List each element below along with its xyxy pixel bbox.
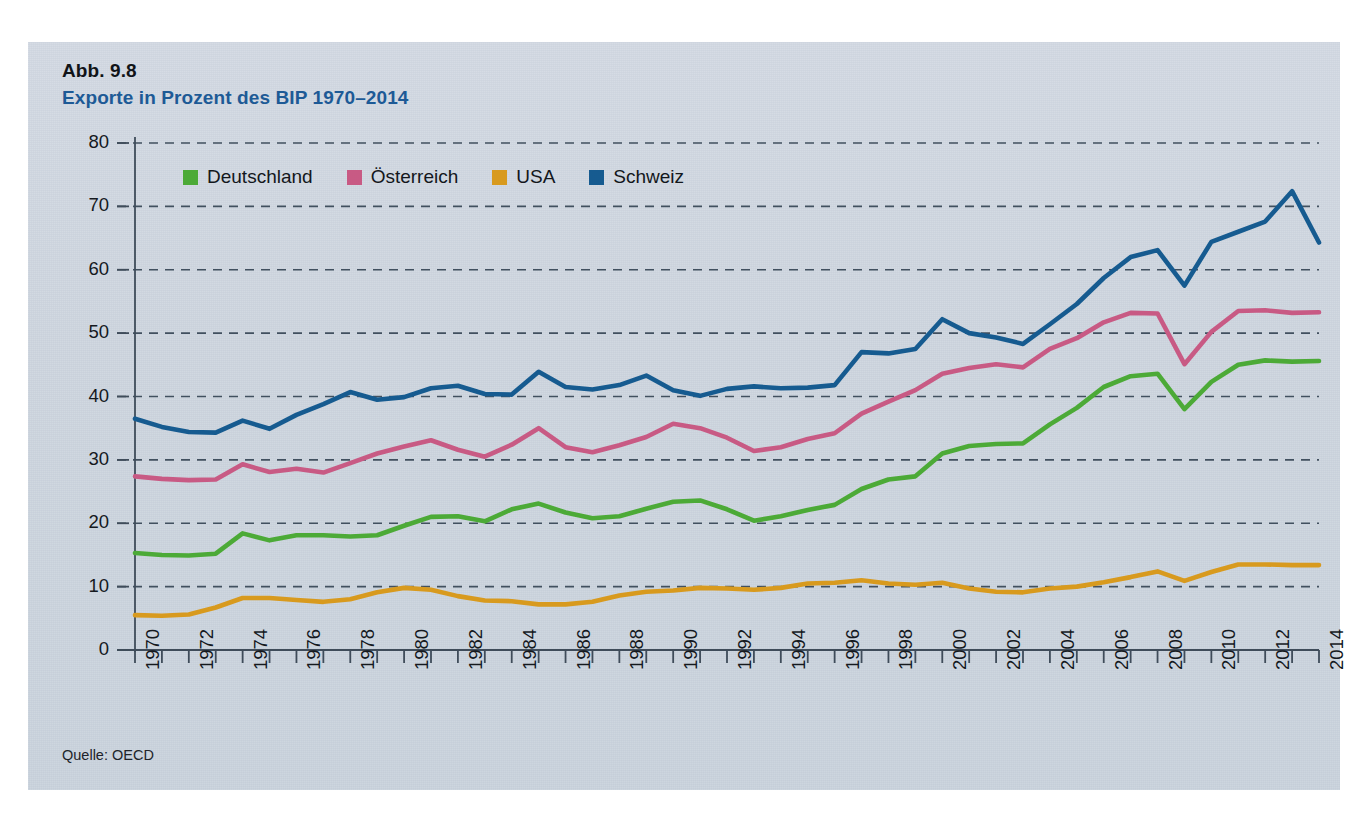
- y-axis-label-20: 20: [65, 511, 109, 533]
- x-axis-label-1972: 1972: [196, 629, 218, 670]
- series-line-sterreich[interactable]: [135, 310, 1319, 480]
- legend-item-schweiz[interactable]: Schweiz: [589, 166, 684, 188]
- legend-swatch-icon: [492, 170, 507, 185]
- y-axis-label-0: 0: [65, 638, 109, 660]
- y-axis-label-40: 40: [65, 385, 109, 407]
- legend-label: Schweiz: [613, 166, 684, 188]
- y-axis-label-70: 70: [65, 194, 109, 216]
- x-axis-label-2000: 2000: [949, 629, 971, 670]
- x-axis-label-2008: 2008: [1165, 629, 1187, 670]
- legend-label: USA: [516, 166, 555, 188]
- x-axis-label-1986: 1986: [573, 629, 595, 670]
- x-axis-label-2012: 2012: [1272, 629, 1294, 670]
- y-axis-label-10: 10: [65, 575, 109, 597]
- legend-swatch-icon: [589, 170, 604, 185]
- x-axis-label-2002: 2002: [1003, 629, 1025, 670]
- x-axis-label-1978: 1978: [357, 629, 379, 670]
- y-axis-label-80: 80: [65, 131, 109, 153]
- x-axis-label-1976: 1976: [303, 629, 325, 670]
- source-note: Quelle: OECD: [62, 747, 154, 763]
- x-axis-label-1970: 1970: [142, 629, 164, 670]
- legend-item-deutschland[interactable]: Deutschland: [183, 166, 313, 188]
- x-axis-label-2004: 2004: [1057, 629, 1079, 670]
- x-axis-label-1982: 1982: [465, 629, 487, 670]
- x-axis-label-1974: 1974: [250, 629, 272, 670]
- legend-item-usa[interactable]: USA: [492, 166, 555, 188]
- chart-plot-area: 8070605040302010019701972197419761978198…: [28, 42, 1340, 790]
- x-axis-label-2006: 2006: [1111, 629, 1133, 670]
- y-axis-label-60: 60: [65, 258, 109, 280]
- y-axis-label-30: 30: [65, 448, 109, 470]
- x-axis-label-1998: 1998: [895, 629, 917, 670]
- legend-label: Österreich: [371, 166, 459, 188]
- x-axis-label-1994: 1994: [788, 629, 810, 670]
- chart-legend: DeutschlandÖsterreichUSASchweiz: [183, 166, 684, 188]
- x-axis-label-1984: 1984: [519, 629, 541, 670]
- y-axis-label-50: 50: [65, 321, 109, 343]
- x-axis-label-1988: 1988: [626, 629, 648, 670]
- x-axis-label-1992: 1992: [734, 629, 756, 670]
- series-line-usa[interactable]: [135, 564, 1319, 615]
- x-axis-label-1996: 1996: [842, 629, 864, 670]
- legend-item-sterreich[interactable]: Österreich: [347, 166, 459, 188]
- figure-panel: Abb. 9.8 Exporte in Prozent des BIP 1970…: [28, 42, 1340, 790]
- legend-label: Deutschland: [207, 166, 313, 188]
- x-axis-label-1980: 1980: [411, 629, 433, 670]
- legend-swatch-icon: [183, 170, 198, 185]
- x-axis-label-1990: 1990: [680, 629, 702, 670]
- x-axis-label-2010: 2010: [1218, 629, 1240, 670]
- line-chart-svg: [28, 42, 1340, 790]
- x-axis-label-2014: 2014: [1326, 629, 1348, 670]
- legend-swatch-icon: [347, 170, 362, 185]
